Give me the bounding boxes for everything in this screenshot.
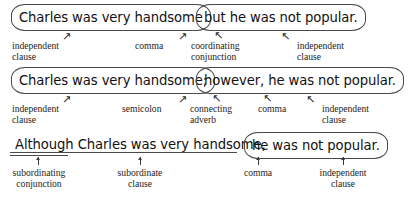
label-comma: comma: [233, 167, 283, 178]
label-independent-clause-2: independent clause: [322, 103, 402, 125]
clause-punctuation-diagram: Charles was very handsome but he was not…: [0, 0, 415, 199]
clause-oval-independent-2: however, he was not popular.: [196, 67, 404, 94]
label-independent-clause-1: independent clause: [12, 40, 90, 62]
sentence-row: Charles was very handsome but he was not…: [0, 0, 415, 30]
clause-oval-independent: he was not popular.: [244, 132, 388, 159]
sentence-row: Charles was very handsome; however, he w…: [0, 63, 415, 93]
arrow-icon-up-subordinate-clause: [138, 157, 142, 160]
clause-oval-independent-1: Charles was very handsome;: [11, 67, 215, 94]
example-compound-conjunctive-adverb: Charles was very handsome; however, he w…: [0, 63, 415, 127]
arrow-icon-up-comma: [256, 157, 260, 160]
label-independent-clause: independent clause: [303, 167, 383, 189]
clause-oval-independent-1: Charles was very handsome: [11, 4, 211, 31]
label-subordinating-conjunction: subordinating conjunction: [0, 167, 78, 189]
arrow-icon-up-independent-clause: [341, 157, 345, 160]
clause-oval-independent-2: but he was not popular.: [196, 4, 366, 31]
clause-underlined-subordinate: Although Charles was very handsome,: [13, 132, 268, 157]
arrow-icon-nw-independent-clause-2: ↖: [281, 31, 290, 42]
sentence-row: Although Charles was very handsome, he w…: [0, 128, 415, 158]
label-coordinating-conjunction: coordinating conjunction: [191, 40, 271, 62]
underline-subordinate-clause: [10, 152, 237, 153]
underline-subordinating-conjunction: [10, 155, 68, 156]
label-independent-clause-1: independent clause: [12, 103, 90, 125]
label-connecting-adverb: connecting adverb: [190, 103, 260, 125]
label-comma: comma: [135, 40, 181, 51]
arrow-icon-nw-independent-clause-2: ↖: [306, 94, 315, 105]
arrow-icon-up-subordinating-conjunction: [36, 157, 40, 160]
label-semicolon: semicolon: [122, 103, 180, 114]
label-independent-clause-2: independent clause: [297, 40, 377, 62]
example-compound-coordinating: Charles was very handsome but he was not…: [0, 0, 415, 64]
label-subordinate-clause: subordinate clause: [100, 167, 180, 189]
example-complex-subordinating: Although Charles was very handsome, he w…: [0, 128, 415, 199]
label-comma: comma: [258, 103, 304, 114]
